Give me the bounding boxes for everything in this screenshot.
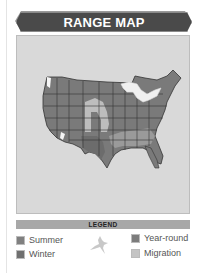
summer-swatch-icon [16,236,25,245]
year-round-swatch-icon [131,234,140,243]
bird-silhouette-icon [88,234,114,258]
legend-label: Year-round [144,233,188,243]
us-map-icon [17,36,191,215]
legend-label: Migration [144,248,181,258]
legend-item-year-round: Year-round [131,233,188,243]
migration-swatch-icon [131,249,140,258]
winter-swatch-icon [16,250,25,259]
page-title: RANGE MAP [63,15,144,30]
legend-label: Summer [29,235,63,245]
range-map [16,35,190,214]
legend-title: LEGEND [89,221,118,228]
title-banner: RANGE MAP [16,12,192,32]
us-landmass [43,70,181,168]
page-margin-rule [6,0,7,273]
legend-item-winter: Winter [16,249,55,259]
legend-label: Winter [29,249,55,259]
legend-item-summer: Summer [16,235,63,245]
legend-item-migration: Migration [131,248,181,258]
legend-header: LEGEND [16,220,190,229]
